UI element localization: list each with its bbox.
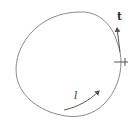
path-label: l	[74, 89, 78, 102]
orientation-arrow	[64, 91, 99, 110]
closed-curve	[16, 12, 121, 117]
tangent-label: t	[117, 10, 123, 23]
tangent-vector-line	[117, 28, 120, 52]
closed-curve-diagram: t l	[0, 0, 134, 127]
